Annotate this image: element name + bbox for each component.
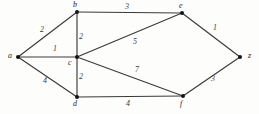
edge-weight-a-d: 4 xyxy=(43,77,47,85)
vertex-label-f: f xyxy=(180,100,182,108)
graph-vertex-e xyxy=(180,11,184,15)
graph-vertex-z xyxy=(238,55,242,59)
vertex-label-e: e xyxy=(179,2,183,10)
edge-weight-c-f: 7 xyxy=(135,66,139,74)
edge-weight-a-b: 2 xyxy=(40,26,44,34)
edge-weight-d-f: 4 xyxy=(126,100,130,108)
vertex-label-d: d xyxy=(73,100,77,108)
edge-weight-c-d: 2 xyxy=(79,73,83,81)
vertex-label-c: c xyxy=(68,59,72,67)
graph-vertex-c xyxy=(75,55,79,59)
edge-weight-a-c: 1 xyxy=(53,45,57,53)
graph-edge-e-z xyxy=(182,13,240,57)
graph-edge-c-e xyxy=(77,13,182,57)
edge-weight-f-z: 3 xyxy=(211,75,215,83)
graph-edge-b-e xyxy=(77,12,182,13)
edge-weight-b-e: 3 xyxy=(125,3,129,11)
graph-edge-a-b xyxy=(18,12,77,57)
graph-canvas xyxy=(0,0,259,114)
edges-group xyxy=(18,12,240,97)
vertex-label-b: b xyxy=(73,1,77,9)
graph-vertex-f xyxy=(181,94,185,98)
edge-weight-e-z: 1 xyxy=(213,24,217,32)
graph-vertex-b xyxy=(75,10,79,14)
graph-edge-c-f xyxy=(77,57,183,96)
edge-weight-c-e: 5 xyxy=(133,38,137,46)
edge-weight-b-c: 2 xyxy=(79,33,83,41)
vertex-label-a: a xyxy=(8,52,12,60)
graph-diagram: 21423527413abcdefz xyxy=(0,0,259,114)
vertices-group xyxy=(16,10,242,99)
graph-edge-d-f xyxy=(77,96,183,97)
graph-vertex-a xyxy=(16,55,20,59)
vertex-label-z: z xyxy=(248,52,251,60)
